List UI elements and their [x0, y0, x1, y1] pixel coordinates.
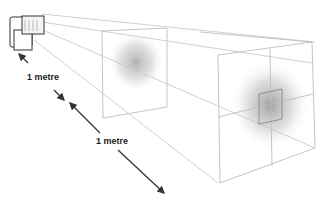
flash-unit-icon [10, 16, 44, 50]
distance-label-1: 1 metre [26, 72, 60, 82]
diagram-canvas [0, 0, 327, 209]
distance-label-2: 1 metre [95, 136, 129, 146]
